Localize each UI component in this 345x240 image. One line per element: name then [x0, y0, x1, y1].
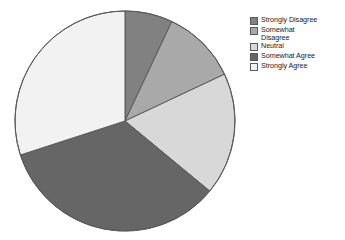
legend-swatch-icon [250, 63, 258, 71]
legend-item-label: Somewhat Agree [261, 52, 315, 60]
pie-chart-figure: Strongly DisagreeSomewhat DisagreeNeutra… [0, 0, 345, 240]
legend-swatch-icon [250, 17, 258, 25]
legend-swatch-icon [250, 27, 258, 35]
legend-item[interactable]: Strongly Disagree [250, 16, 342, 25]
legend-item[interactable]: Strongly Agree [250, 62, 342, 71]
legend-swatch-icon [250, 53, 258, 61]
legend-item-label: Somewhat Disagree [261, 26, 295, 41]
pie-chart-plot-area [14, 8, 236, 234]
legend-item-label: Strongly Agree [261, 62, 307, 70]
legend-item[interactable]: Somewhat Agree [250, 52, 342, 61]
chart-legend: Strongly DisagreeSomewhat DisagreeNeutra… [250, 16, 342, 71]
legend-item-label: Strongly Disagree [261, 16, 317, 24]
legend-item-label: Neutral [261, 42, 284, 50]
legend-item[interactable]: Somewhat Disagree [250, 26, 342, 41]
legend-swatch-icon [250, 43, 258, 51]
legend-item[interactable]: Neutral [250, 42, 342, 51]
pie-chart-svg [14, 8, 236, 234]
